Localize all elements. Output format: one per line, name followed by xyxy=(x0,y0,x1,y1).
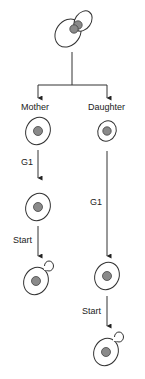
branch-connector xyxy=(38,52,107,98)
cell-cycle-diagram xyxy=(0,0,145,379)
mother-budding-cell-icon xyxy=(19,261,53,299)
daughter-start-label: Start xyxy=(82,307,101,316)
mother-g1-label: G1 xyxy=(21,158,33,167)
daughter-budding-cell-icon xyxy=(89,332,123,370)
mother-label: Mother xyxy=(21,103,49,112)
daughter-cell-1-icon xyxy=(94,118,119,145)
daughter-g1-label: G1 xyxy=(90,198,102,207)
mother-cell-1-icon xyxy=(21,113,55,149)
daughter-cell-2-icon xyxy=(90,258,124,294)
mother-start-label: Start xyxy=(13,236,32,245)
mother-cell-2-icon xyxy=(21,189,55,225)
dividing-cell-icon xyxy=(50,7,96,52)
daughter-label: Daughter xyxy=(88,103,125,112)
